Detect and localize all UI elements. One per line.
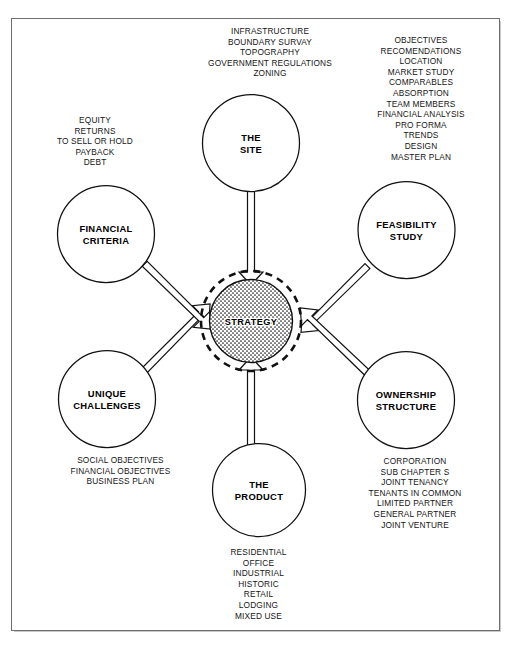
annotation-ownership-structure: CORPORATION SUB CHAPTER S JOINT TENANCY … xyxy=(340,456,490,530)
node-the-product[interactable]: THE PRODUCT xyxy=(213,444,306,537)
node-label-line1: OWNERSHIP xyxy=(376,389,437,400)
node-the-site[interactable]: THE SITE xyxy=(203,95,300,192)
node-label-line2: CHALLENGES xyxy=(73,400,141,411)
annotation-the-product: RESIDENTIAL OFFICE INDUSTRIAL HISTORIC R… xyxy=(186,547,331,621)
node-label-line2: SITE xyxy=(240,144,262,155)
connector-financial-criteria xyxy=(142,261,211,329)
node-ownership-structure[interactable]: OWNERSHIP STRUCTURE xyxy=(358,352,455,449)
node-label-line1: UNIQUE xyxy=(88,388,126,399)
node-financial-criteria[interactable]: FINANCIAL CRITERIA xyxy=(58,186,155,283)
hub-label: STRATEGY xyxy=(225,317,278,327)
annotation-unique-challenges: SOCIAL OBJECTIVES FINANCIAL OBJECTIVES B… xyxy=(48,455,193,487)
node-label-line2: STUDY xyxy=(390,231,424,242)
node-label-line1: FEASIBILITY xyxy=(376,219,437,230)
node-unique-challenges[interactable]: UNIQUE CHALLENGES xyxy=(59,351,156,448)
hub-strategy[interactable]: STRATEGY xyxy=(201,271,301,371)
node-label-line2: STRUCTURE xyxy=(376,401,437,412)
node-label-line1: THE xyxy=(241,132,261,143)
node-label-line2: CRITERIA xyxy=(83,235,130,246)
node-label-line1: THE xyxy=(249,479,269,490)
connector-ownership-structure xyxy=(300,308,369,375)
node-label-line2: PRODUCT xyxy=(235,491,283,502)
node-label-line1: FINANCIAL xyxy=(79,223,132,234)
annotation-financial-criteria: EQUITY RETURNS TO SELL OR HOLD PAYBACK D… xyxy=(30,115,160,168)
annotation-the-site: INFRASTRUCTURE BOUNDARY SURVAY TOPOGRAPH… xyxy=(178,26,362,79)
diagram-stage: STRATEGY THE SITE FEASIBILITY STUDY OWNE… xyxy=(0,0,513,647)
annotation-feasibility-study: OBJECTIVES RECOMENDATIONS LOCATION MARKE… xyxy=(356,35,486,162)
node-feasibility-study[interactable]: FEASIBILITY STUDY xyxy=(358,182,455,279)
